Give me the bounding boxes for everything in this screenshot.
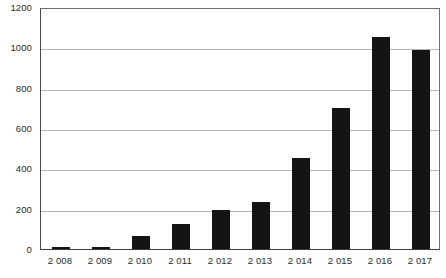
y-tick-label: 1200 [10, 3, 32, 13]
y-tick-label: 0 [27, 245, 32, 255]
x-tick-label: 2 012 [200, 256, 240, 266]
bars-layer [41, 9, 439, 249]
x-tick-label: 2 014 [280, 256, 320, 266]
y-tick-label: 1000 [10, 43, 32, 53]
x-tick-label: 2 016 [360, 256, 400, 266]
plot-area [40, 8, 440, 250]
x-tick-label: 2 009 [80, 256, 120, 266]
x-tick-label: 2 010 [120, 256, 160, 266]
bar [52, 247, 70, 249]
x-tick-label: 2 013 [240, 256, 280, 266]
y-tick-label: 600 [16, 124, 32, 134]
x-axis: 2 0082 0092 0102 0112 0122 0132 0142 015… [40, 253, 440, 275]
bar [372, 37, 390, 249]
bar-chart: 020040060080010001200 2 0082 0092 0102 0… [0, 0, 446, 278]
x-tick-label: 2 011 [160, 256, 200, 266]
bar [132, 236, 150, 249]
bar [212, 210, 230, 249]
y-axis: 020040060080010001200 [0, 0, 36, 278]
y-tick-label: 200 [16, 205, 32, 215]
bar [412, 50, 430, 249]
x-tick-label: 2 017 [400, 256, 440, 266]
x-tick-label: 2 015 [320, 256, 360, 266]
x-tick-label: 2 008 [40, 256, 80, 266]
bar [292, 158, 310, 249]
y-tick-label: 400 [16, 164, 32, 174]
bar [252, 202, 270, 249]
y-tick-label: 800 [16, 84, 32, 94]
bar [92, 247, 110, 249]
bar [332, 108, 350, 249]
bar [172, 224, 190, 249]
